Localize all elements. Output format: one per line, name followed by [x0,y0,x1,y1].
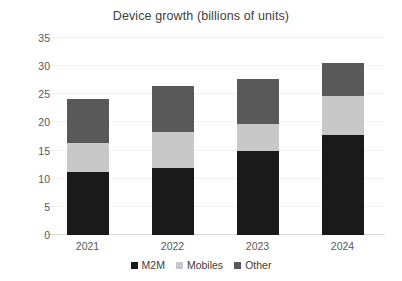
legend-label: Other [245,259,271,271]
legend-label: M2M [142,259,165,271]
legend-swatch-icon [176,262,183,269]
y-axis-tick-label: 15 [24,145,50,157]
y-axis-tick-label: 35 [24,32,50,44]
bar-column[interactable] [237,79,279,235]
stacked-bar-chart: Device growth (billions of units) M2MMob… [0,0,402,281]
legend-item-other[interactable]: Other [234,259,271,271]
chart-legend: M2MMobilesOther [0,259,402,271]
bar-segment-other[interactable] [152,86,194,132]
y-axis-tick-label: 0 [24,229,50,241]
legend-swatch-icon [131,262,138,269]
bar-segment-other[interactable] [322,63,364,96]
x-axis-tick-label: 2022 [138,240,208,252]
y-axis-tick-label: 30 [24,60,50,72]
bar-column[interactable] [67,99,109,235]
bar-segment-m2m[interactable] [152,168,194,235]
bar-segment-other[interactable] [237,79,279,124]
chart-title: Device growth (billions of units) [0,9,402,23]
legend-item-mobiles[interactable]: Mobiles [176,259,223,271]
bar-segment-mobiles[interactable] [322,96,364,135]
x-axis-tick-label: 2021 [53,240,123,252]
legend-swatch-icon [234,262,241,269]
legend-label: Mobiles [187,259,223,271]
x-axis-tick-label: 2024 [308,240,378,252]
y-axis-tick-label: 20 [24,116,50,128]
y-axis-tick-label: 25 [24,88,50,100]
y-axis-tick-label: 10 [24,173,50,185]
bar-segment-mobiles[interactable] [67,143,109,172]
bar-segment-mobiles[interactable] [152,132,194,168]
bar-column[interactable] [322,63,364,235]
legend-item-m2m[interactable]: M2M [131,259,165,271]
y-axis-tick-label: 5 [24,201,50,213]
bar-segment-mobiles[interactable] [237,124,279,151]
bar-segment-other[interactable] [67,99,109,143]
bar-segment-m2m[interactable] [322,135,364,235]
bar-column[interactable] [152,86,194,235]
x-axis-tick-label: 2023 [223,240,293,252]
gridline [45,37,385,38]
bar-segment-m2m[interactable] [67,172,109,235]
plot-area [45,38,385,235]
bar-segment-m2m[interactable] [237,151,279,235]
